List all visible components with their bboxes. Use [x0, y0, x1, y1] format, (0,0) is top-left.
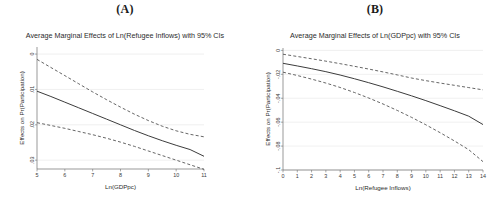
svg-text:Ln(Refugee Inflows): Ln(Refugee Inflows) [355, 184, 410, 191]
svg-text:Effects on Pr(Participation): Effects on Pr(Participation) [18, 71, 25, 144]
svg-text:9: 9 [410, 173, 413, 179]
svg-text:13: 13 [466, 173, 472, 179]
svg-text:3: 3 [324, 173, 327, 179]
svg-text:10: 10 [173, 172, 179, 178]
svg-text:11: 11 [437, 173, 443, 179]
panel-b-plot: 0-.02-.04-.06-.08-.101234567891011121314… [250, 0, 500, 213]
svg-text:0: 0 [275, 49, 281, 52]
svg-text:5: 5 [36, 172, 39, 178]
svg-text:5: 5 [353, 173, 356, 179]
svg-text:0: 0 [29, 53, 35, 56]
panel-a: (A) Average Marginal Effects of Ln(Refug… [0, 0, 250, 213]
panel-b: (B) Average Marginal Effects of Ln(GDPpc… [250, 0, 500, 213]
figure-container: (A) Average Marginal Effects of Ln(Refug… [0, 0, 501, 213]
svg-text:1: 1 [296, 173, 299, 179]
svg-text:6: 6 [63, 172, 66, 178]
svg-text:7: 7 [382, 173, 385, 179]
svg-text:-.08: -.08 [275, 141, 281, 150]
svg-text:10: 10 [423, 173, 429, 179]
panel-a-plot: .03.02.010567891011Ln(GDPpc)Effects on P… [0, 0, 250, 213]
svg-text:14: 14 [480, 173, 486, 179]
svg-text:12: 12 [451, 173, 457, 179]
svg-text:4: 4 [339, 173, 342, 179]
svg-text:.01: .01 [29, 86, 35, 94]
svg-text:.03: .03 [29, 156, 35, 164]
svg-text:-.06: -.06 [275, 118, 281, 127]
svg-text:Effects on Pr(Participation): Effects on Pr(Participation) [264, 72, 271, 145]
svg-text:.02: .02 [29, 121, 35, 129]
svg-text:9: 9 [147, 172, 150, 178]
svg-text:0: 0 [282, 173, 285, 179]
svg-text:-.02: -.02 [275, 70, 281, 79]
svg-text:11: 11 [201, 172, 207, 178]
svg-text:Ln(GDPpc): Ln(GDPpc) [105, 183, 136, 190]
svg-text:8: 8 [119, 172, 122, 178]
svg-text:7: 7 [91, 172, 94, 178]
svg-text:-.04: -.04 [275, 94, 281, 103]
svg-text:2: 2 [310, 173, 313, 179]
svg-text:8: 8 [396, 173, 399, 179]
svg-text:6: 6 [367, 173, 370, 179]
